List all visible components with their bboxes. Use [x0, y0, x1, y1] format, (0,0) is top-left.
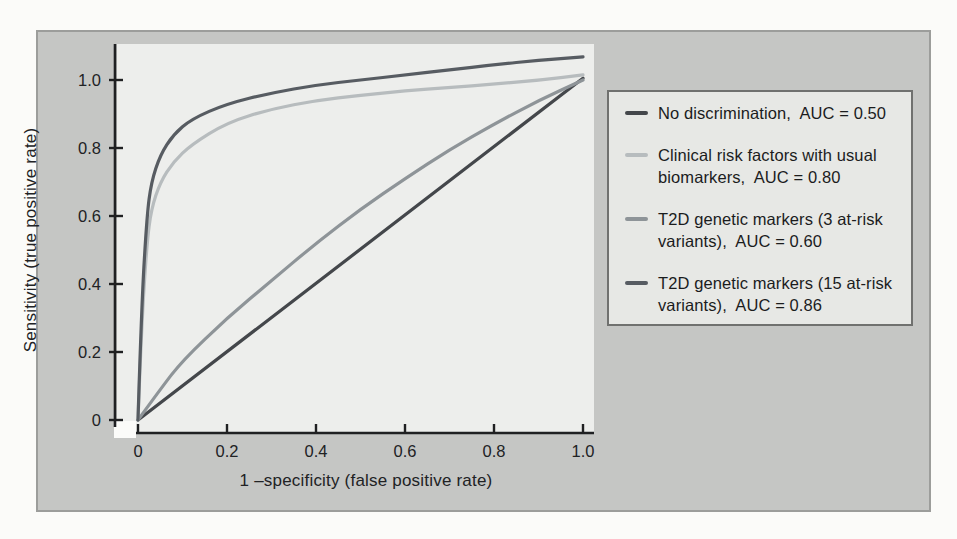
legend-label-line: No discrimination, AUC = 0.50 [658, 102, 886, 124]
x-tick-label: 0 [133, 442, 142, 460]
legend-label: Clinical risk factors with usualbiomarke… [658, 144, 877, 188]
legend-item-3: T2D genetic markers (15 at-riskvariants)… [623, 272, 903, 316]
y-tick-label: 0.4 [78, 275, 101, 293]
x-tick-label: 1.0 [572, 442, 595, 460]
legend-item-2: T2D genetic markers (3 at-riskvariants),… [623, 208, 903, 252]
legend-item-0: No discrimination, AUC = 0.50 [623, 102, 903, 124]
y-tick-label: 1.0 [78, 71, 101, 89]
x-tick-label: 0.8 [483, 442, 506, 460]
legend-line-swatch [625, 111, 648, 115]
legend-label-line: T2D genetic markers (3 at-risk [658, 208, 883, 230]
y-tick-label: 0.2 [78, 343, 101, 361]
legend-line-swatch [625, 153, 648, 157]
y-axis-title: Sensitivity (true positive rate) [21, 100, 43, 380]
legend-label-line: Clinical risk factors with usual [658, 144, 877, 166]
legend-item-1: Clinical risk factors with usualbiomarke… [623, 144, 903, 188]
x-tick-label: 0.4 [305, 442, 328, 460]
y-tick-label: 0.6 [78, 207, 101, 225]
y-tick-label: 0 [92, 411, 101, 429]
legend-label-line: T2D genetic markers (15 at-risk [658, 272, 892, 294]
legend-label-line: variants), AUC = 0.60 [658, 230, 883, 252]
x-tick-label: 0.6 [394, 442, 417, 460]
x-axis-title: 1 –specificity (false positive rate) [138, 471, 594, 491]
axis-corner-gap [114, 421, 136, 438]
legend-label: T2D genetic markers (3 at-riskvariants),… [658, 208, 883, 252]
legend-label-line: biomarkers, AUC = 0.80 [658, 166, 877, 188]
legend-line-swatch [625, 281, 648, 285]
y-tick-label: 0.8 [78, 139, 101, 157]
x-tick-label: 0.2 [216, 442, 239, 460]
legend-label-line: variants), AUC = 0.86 [658, 294, 892, 316]
plot-area [117, 44, 594, 433]
legend: No discrimination, AUC = 0.50Clinical ri… [607, 90, 913, 326]
legend-line-swatch [625, 217, 648, 221]
legend-label: T2D genetic markers (15 at-riskvariants)… [658, 272, 892, 316]
legend-label: No discrimination, AUC = 0.50 [658, 102, 886, 124]
